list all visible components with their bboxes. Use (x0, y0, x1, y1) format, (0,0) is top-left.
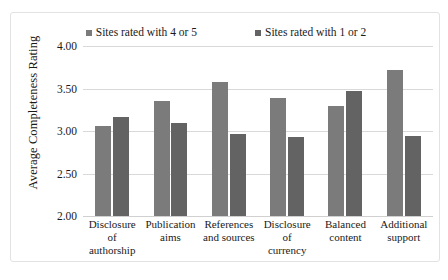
x-axis-tick-label: Disclosure ofcurrency (258, 218, 316, 257)
bar-group (375, 46, 433, 216)
bar-group (316, 46, 374, 216)
bar[interactable] (212, 82, 228, 216)
legend-item-label: Sites rated with 4 or 5 (96, 26, 197, 38)
legend-item-sites-rated-4-or-5[interactable]: Sites rated with 4 or 5 (86, 26, 197, 38)
legend-item-label: Sites rated with 1 or 2 (265, 26, 366, 38)
x-axis-tick-label: Balancedcontent (316, 218, 374, 257)
bar[interactable] (328, 106, 344, 216)
bar[interactable] (95, 126, 111, 216)
chart-legend: Sites rated with 4 or 5 Sites rated with… (11, 23, 441, 41)
x-axis-tick-labels: Disclosure ofauthorshipPublicationaimsRe… (83, 218, 433, 257)
legend-item-sites-rated-1-or-2[interactable]: Sites rated with 1 or 2 (255, 26, 366, 38)
bar[interactable] (113, 117, 129, 216)
x-axis-tick-label: Publicationaims (141, 218, 199, 257)
bar-group (200, 46, 258, 216)
bar[interactable] (230, 134, 246, 216)
bar[interactable] (171, 123, 187, 217)
x-axis-tick-label: Disclosure ofauthorship (83, 218, 141, 257)
y-axis-title: Average Completeness Rating (26, 23, 41, 203)
bar[interactable] (405, 136, 421, 216)
y-axis-tick-label: 3.50 (43, 83, 77, 95)
bar-group (141, 46, 199, 216)
bar-groups (83, 46, 433, 216)
bar[interactable] (346, 91, 362, 216)
bar[interactable] (270, 98, 286, 216)
y-axis-tick-label: 4.00 (43, 40, 77, 52)
y-axis-tick-label: 3.00 (43, 125, 77, 137)
x-axis-tick-label: Additionalsupport (375, 218, 433, 257)
bar[interactable] (288, 137, 304, 216)
chart-container: Sites rated with 4 or 5 Sites rated with… (10, 12, 440, 262)
gridline (83, 216, 433, 217)
bar-group (258, 46, 316, 216)
square-marker-icon (255, 30, 261, 36)
bar-group (83, 46, 141, 216)
square-marker-icon (86, 30, 92, 36)
y-axis-tick-label: 2.00 (43, 210, 77, 222)
x-axis-tick-label: Referencesand sources (200, 218, 258, 257)
bar[interactable] (387, 70, 403, 216)
plot-area: 4.003.503.002.502.00 (83, 46, 433, 216)
bar[interactable] (154, 101, 170, 216)
y-axis-tick-label: 2.50 (43, 168, 77, 180)
